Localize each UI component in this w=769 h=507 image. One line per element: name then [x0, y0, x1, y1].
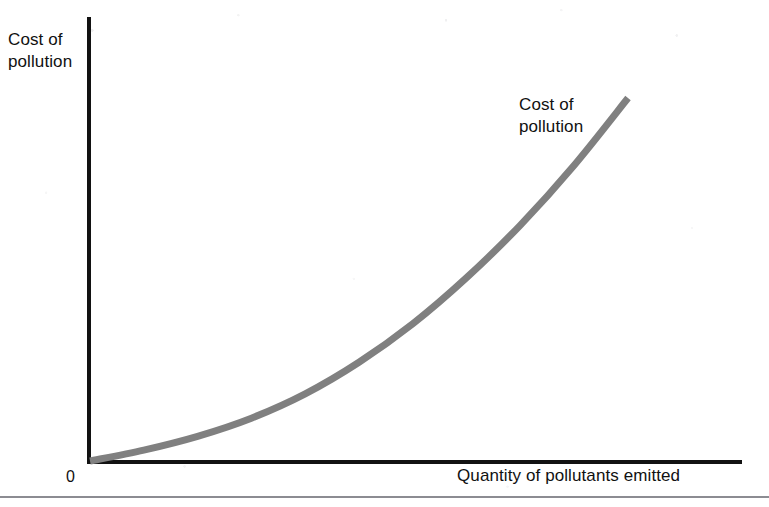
curve-annotation-label: Cost ofpollution	[519, 94, 583, 138]
y-axis-label: Cost ofpollution	[8, 29, 72, 73]
y-axis-label-line-1: Cost of	[8, 30, 63, 49]
curve-annotation-line-2: pollution	[519, 117, 583, 136]
curve-annotation-line-1: Cost of	[519, 95, 574, 114]
pollution-cost-figure: Cost ofpollution Cost ofpollution Quanti…	[0, 0, 769, 507]
cost-of-pollution-curve	[90, 98, 628, 461]
y-axis-label-line-2: pollution	[8, 52, 72, 71]
bottom-divider-rule	[0, 496, 769, 498]
origin-tick-label: 0	[66, 466, 75, 488]
chart-plot-area	[0, 0, 769, 507]
x-axis-label: Quantity of pollutants emitted	[457, 465, 680, 487]
